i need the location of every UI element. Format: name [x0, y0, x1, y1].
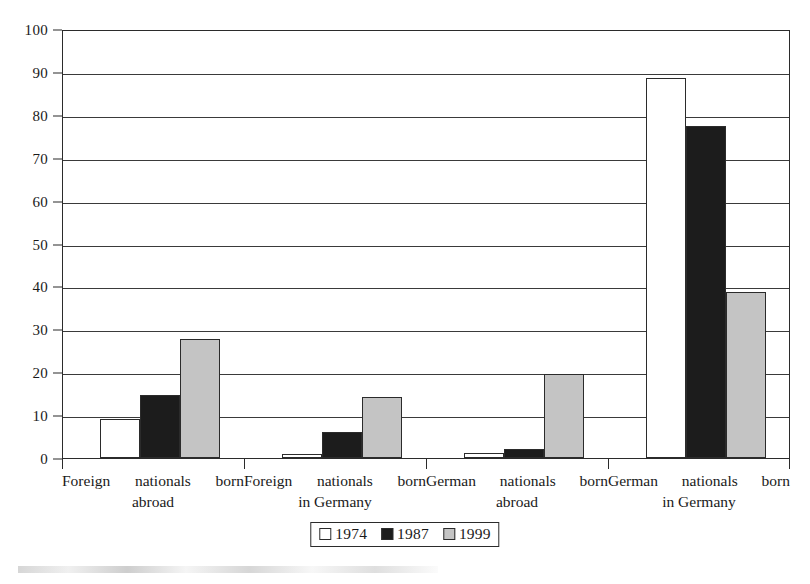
legend-entry-1987: 1987 [381, 526, 429, 542]
bar-chart-figure: 0102030405060708090100 Foreign nationals… [0, 0, 810, 584]
category-label-3: German nationals bornabroad [426, 470, 608, 512]
bar-1974-group4 [646, 78, 686, 458]
y-tick-label-80: 80 [32, 108, 48, 123]
y-tick-label-90: 90 [32, 65, 48, 80]
category-label-line1: German nationals born [426, 470, 608, 491]
bar-1974-group1 [100, 419, 140, 458]
x-axis-category-labels: Foreign nationals bornabroadForeign nati… [62, 470, 790, 516]
bar-1987-group3 [504, 449, 544, 458]
y-tick-mark-10 [53, 416, 62, 417]
y-tick-mark-60 [53, 201, 62, 202]
category-label-2: Foreign nationals bornin Germany [244, 470, 426, 512]
bar-1999-group4 [726, 292, 766, 458]
y-tick-label-40: 40 [32, 280, 48, 295]
x-tick-mark-3 [608, 459, 609, 469]
category-label-line2: in Germany [244, 491, 426, 512]
bar-1999-group2 [362, 397, 402, 458]
x-tick-mark-4 [789, 459, 790, 469]
y-tick-label-50: 50 [32, 237, 48, 252]
category-label-1: Foreign nationals bornabroad [62, 470, 244, 512]
category-label-line1: Foreign nationals born [244, 470, 426, 491]
y-tick-mark-20 [53, 373, 62, 374]
y-tick-label-20: 20 [32, 366, 48, 381]
scan-artifact [18, 566, 438, 573]
category-label-line1: Foreign nationals born [62, 470, 244, 491]
x-tick-mark-1 [244, 459, 245, 469]
bar-1999-group3 [544, 374, 584, 458]
y-tick-mark-30 [53, 330, 62, 331]
y-tick-mark-70 [53, 158, 62, 159]
category-label-line2: in Germany [608, 491, 790, 512]
bar-1987-group1 [140, 395, 180, 458]
y-tick-mark-0 [53, 459, 62, 460]
y-tick-label-60: 60 [32, 194, 48, 209]
y-tick-mark-40 [53, 287, 62, 288]
y-tick-label-70: 70 [32, 151, 48, 166]
gray-square-swatch [443, 528, 455, 540]
bar-1987-group2 [322, 432, 362, 458]
bars-layer [63, 31, 789, 458]
y-tick-mark-100 [53, 30, 62, 31]
legend-label-1999: 1999 [459, 526, 491, 542]
y-axis: 0102030405060708090100 [0, 0, 62, 584]
plot-area [62, 30, 790, 459]
legend-entry-1999: 1999 [443, 526, 491, 542]
y-tick-label-100: 100 [25, 23, 48, 38]
white-square-swatch [319, 528, 331, 540]
y-tick-mark-80 [53, 115, 62, 116]
bar-1974-group2 [282, 454, 322, 458]
black-square-swatch [381, 528, 393, 540]
category-label-line2: abroad [62, 491, 244, 512]
category-label-line2: abroad [426, 491, 608, 512]
category-label-4: German nationals bornin Germany [608, 470, 790, 512]
bar-1999-group1 [180, 339, 220, 458]
category-label-line1: German nationals born [608, 470, 790, 491]
legend-label-1974: 1974 [335, 526, 367, 542]
x-tick-mark-0 [62, 459, 63, 469]
bar-1974-group3 [464, 453, 504, 458]
y-tick-label-10: 10 [32, 409, 48, 424]
y-tick-mark-50 [53, 244, 62, 245]
y-tick-label-0: 0 [40, 452, 48, 467]
y-tick-label-30: 30 [32, 323, 48, 338]
y-tick-mark-90 [53, 72, 62, 73]
legend-entry-1974: 1974 [319, 526, 367, 542]
legend-label-1987: 1987 [397, 526, 429, 542]
x-tick-mark-2 [426, 459, 427, 469]
chart-legend: 197419871999 [310, 522, 499, 547]
bar-1987-group4 [686, 126, 726, 458]
